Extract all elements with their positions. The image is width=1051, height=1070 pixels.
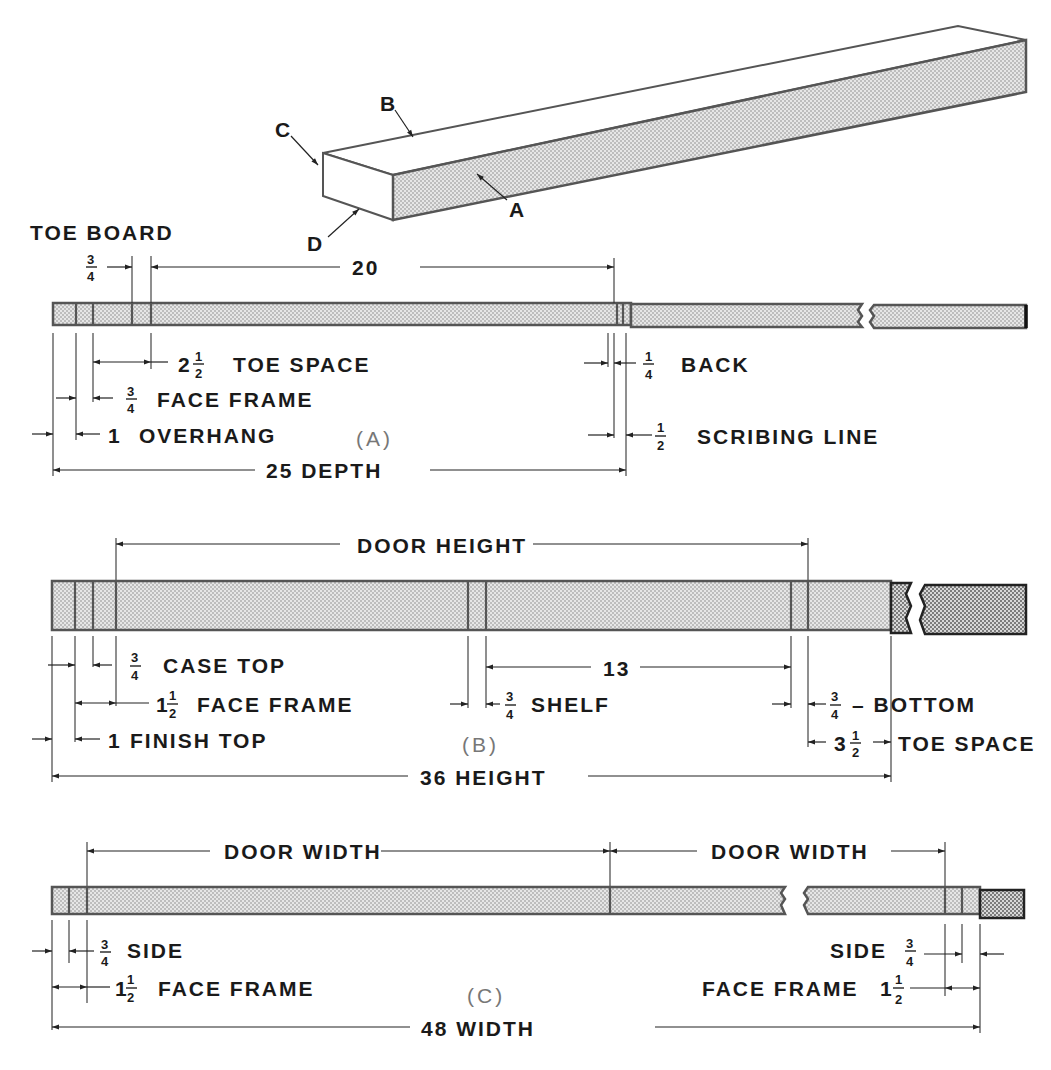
board-a-main	[53, 303, 631, 325]
svg-text:1: 1	[108, 729, 122, 752]
panel-label-a: (A)	[356, 427, 393, 450]
svg-text:4: 4	[101, 954, 109, 969]
svg-text:2: 2	[127, 990, 134, 1005]
label-c: C	[275, 118, 292, 141]
door-height-label: DOOR HEIGHT	[357, 534, 527, 557]
width-label: 48 WIDTH	[421, 1017, 535, 1040]
side-left-label: SIDE	[127, 939, 184, 962]
panel-label-c: (C)	[467, 984, 505, 1007]
svg-text:3: 3	[506, 689, 513, 704]
overhang-label: OVERHANG	[139, 424, 276, 447]
face-frame-label-b: FACE FRAME	[197, 693, 354, 716]
arrow-b	[395, 110, 413, 137]
side-right-label: SIDE	[830, 939, 887, 962]
bottom-label: – BOTTOM	[852, 693, 976, 716]
case-top-label: CASE TOP	[163, 654, 286, 677]
board-c-left	[52, 887, 785, 914]
panel-a-depth: TOE BOARD 3 4 20 2 1 2	[30, 221, 1026, 482]
svg-text:1: 1	[195, 349, 202, 364]
toe-board-den: 4	[87, 269, 95, 284]
arrow-d	[328, 209, 359, 237]
arrow-c	[291, 136, 318, 165]
back-label: BACK	[681, 353, 750, 376]
board-c-end-block	[980, 890, 1024, 918]
svg-text:4: 4	[645, 367, 653, 382]
face-frame-label-a: FACE FRAME	[157, 388, 314, 411]
svg-text:2: 2	[195, 366, 202, 381]
svg-text:1: 1	[880, 977, 894, 1000]
board-c-right	[804, 887, 980, 914]
toe-board-num: 3	[87, 252, 94, 267]
svg-text:4: 4	[131, 668, 139, 683]
dim-20: 20	[352, 256, 379, 279]
label-a: A	[509, 198, 526, 221]
board-a-right-end	[870, 305, 1026, 328]
svg-text:1: 1	[852, 728, 859, 743]
board-b-right-end	[920, 585, 1026, 634]
svg-text:3: 3	[906, 936, 913, 951]
scribing-line-label: SCRIBING LINE	[697, 425, 879, 448]
svg-text:3: 3	[101, 937, 108, 952]
panel-label-b: (B)	[462, 733, 499, 756]
isometric-board: B C A D	[275, 26, 1026, 255]
face-frame-left-label: FACE FRAME	[158, 977, 315, 1000]
shelf-label: SHELF	[531, 693, 610, 716]
svg-text:2: 2	[169, 706, 176, 721]
toe-space-label-b: TOE SPACE	[898, 732, 1035, 755]
face-frame-right-label: FACE FRAME	[702, 977, 859, 1000]
svg-text:4: 4	[831, 707, 839, 722]
board-b-main	[52, 581, 891, 630]
label-d: D	[307, 232, 324, 255]
svg-text:3: 3	[131, 650, 138, 665]
svg-text:4: 4	[906, 954, 914, 969]
dim-13: 13	[603, 657, 630, 680]
panel-b-height: DOOR HEIGHT 3 4 CASE TOP 1 1	[32, 534, 1035, 789]
svg-text:1: 1	[645, 349, 652, 364]
door-width-left-label: DOOR WIDTH	[224, 840, 382, 863]
toe-space-label: TOE SPACE	[233, 353, 370, 376]
svg-text:1: 1	[108, 424, 122, 447]
svg-text:2: 2	[852, 745, 859, 760]
svg-text:1: 1	[895, 972, 902, 987]
svg-text:1: 1	[169, 688, 176, 703]
svg-text:2: 2	[657, 438, 664, 453]
finish-top-label: FINISH TOP	[130, 729, 267, 752]
svg-text:1: 1	[657, 420, 664, 435]
cabinet-layout-diagram: B C A D TOE BOARD 3 4 20	[0, 0, 1051, 1070]
svg-text:2: 2	[178, 353, 192, 376]
panel-c-width: DOOR WIDTH DOOR WIDTH 3 4 SIDE 1 1 2	[32, 840, 1024, 1040]
board-a-right-part	[631, 304, 862, 327]
svg-text:3: 3	[834, 732, 848, 755]
svg-text:4: 4	[506, 707, 514, 722]
height-label: 36 HEIGHT	[420, 766, 547, 789]
svg-text:2: 2	[895, 992, 902, 1007]
door-width-right-label: DOOR WIDTH	[711, 840, 869, 863]
toe-board-title: TOE BOARD	[30, 221, 174, 244]
board-b-break	[891, 583, 911, 633]
svg-text:4: 4	[127, 401, 135, 416]
label-b: B	[380, 92, 397, 115]
svg-text:3: 3	[127, 384, 134, 399]
depth-label: 25 DEPTH	[266, 459, 382, 482]
svg-text:1: 1	[127, 972, 134, 987]
svg-text:3: 3	[831, 689, 838, 704]
